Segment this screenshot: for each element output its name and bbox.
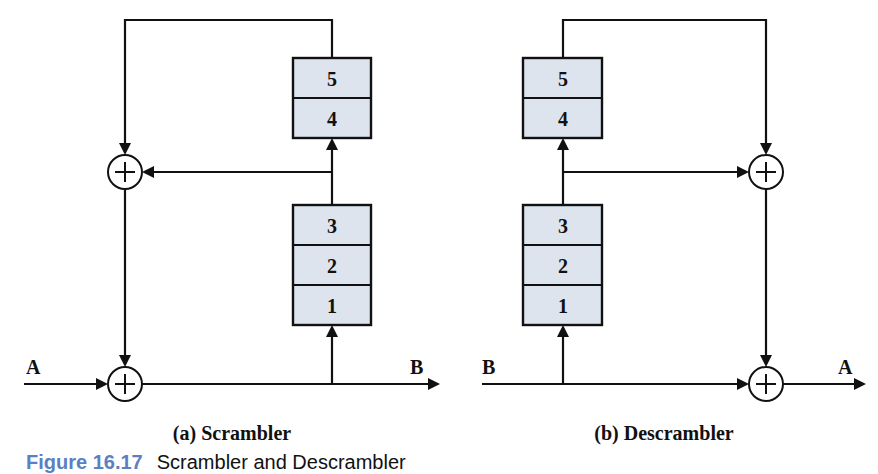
register-cell-3: 3 xyxy=(327,215,337,237)
xor-gate-lower-icon xyxy=(108,367,142,401)
arrowhead-icon xyxy=(557,138,569,150)
arrowhead-icon xyxy=(326,325,338,337)
register-cell-1: 1 xyxy=(558,295,568,317)
xor-gate-upper-icon xyxy=(108,155,142,189)
arrowhead-icon xyxy=(96,378,108,390)
register-cell-4: 4 xyxy=(327,108,337,130)
scrambler-panel: 5 4 3 2 1 A B (a) Scrambler xyxy=(24,20,440,445)
descrambler-panel: 5 4 3 2 1 B A (b) Descrambler xyxy=(482,20,866,445)
arrowhead-icon xyxy=(854,378,866,390)
output-label: A xyxy=(838,356,853,378)
figure-caption: Figure 16.17Scrambler and Descrambler xyxy=(26,451,406,474)
arrowhead-icon xyxy=(737,166,749,178)
arrowhead-icon xyxy=(119,143,131,155)
figure-number: Figure 16.17 xyxy=(26,451,143,473)
xor-gate-upper-icon xyxy=(749,155,783,189)
arrowhead-icon xyxy=(557,325,569,337)
scrambler-caption: (a) Scrambler xyxy=(173,422,291,445)
arrowhead-icon xyxy=(760,355,772,367)
xor-gate-lower-icon xyxy=(749,367,783,401)
descrambler-caption: (b) Descrambler xyxy=(594,422,734,445)
arrowhead-icon xyxy=(760,143,772,155)
input-label: A xyxy=(26,356,41,378)
register-cell-2: 2 xyxy=(327,255,337,277)
figure-title: Scrambler and Descrambler xyxy=(157,451,406,473)
register-cell-4: 4 xyxy=(558,108,568,130)
arrowhead-icon xyxy=(737,378,749,390)
arrowhead-icon xyxy=(326,138,338,150)
register-cell-3: 3 xyxy=(558,215,568,237)
output-label: B xyxy=(410,356,423,378)
register-cell-5: 5 xyxy=(558,68,568,90)
input-label: B xyxy=(482,356,495,378)
register-cell-1: 1 xyxy=(327,295,337,317)
arrowhead-icon xyxy=(142,166,154,178)
arrowhead-icon xyxy=(119,355,131,367)
register-cell-5: 5 xyxy=(327,68,337,90)
arrowhead-icon xyxy=(428,378,440,390)
register-cell-2: 2 xyxy=(558,255,568,277)
